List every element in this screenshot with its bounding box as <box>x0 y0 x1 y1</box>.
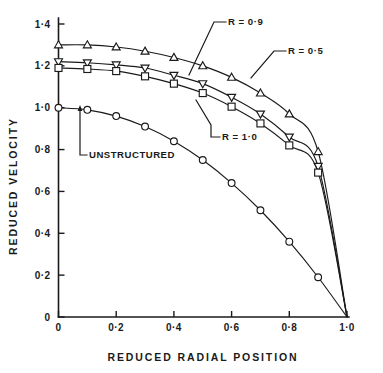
data-point-marker <box>55 64 62 71</box>
annotation-label-r09: R = 0·9 <box>228 16 263 27</box>
y-tick-label: 0·8 <box>35 144 51 155</box>
data-point-marker <box>286 142 293 149</box>
y-tick-label: 1·0 <box>35 102 51 113</box>
data-point-marker <box>142 123 149 130</box>
y-tick-label: 0·6 <box>35 186 51 197</box>
data-point-marker <box>199 90 206 97</box>
data-point-marker <box>228 180 235 187</box>
data-point-marker <box>113 68 120 75</box>
annotation-label-r10: R = 1·0 <box>222 131 257 142</box>
x-tick-label: 0·2 <box>108 322 124 333</box>
data-point-marker <box>170 80 177 87</box>
data-point-marker <box>113 113 120 120</box>
data-point-marker <box>171 138 178 145</box>
data-point-marker <box>315 169 322 176</box>
data-point-marker <box>55 104 62 111</box>
x-tick-label: 0·8 <box>281 322 297 333</box>
y-tick-label: 1·2 <box>35 60 51 71</box>
annotation-label-r05: R = 0·5 <box>288 45 323 56</box>
x-tick-label: 1·0 <box>339 322 355 333</box>
y-tick-label: 1·4 <box>35 19 51 30</box>
data-point-marker <box>286 238 293 245</box>
data-point-marker <box>315 274 322 281</box>
chart-figure: 00·20·40·60·81·01·21·4 00·20·40·60·81·0 … <box>0 0 383 373</box>
y-tick-label: 0·4 <box>35 228 51 239</box>
annotation-label-unstructured: UNSTRUCTURED <box>89 149 175 160</box>
y-axis-title: REDUCED VELOCITY <box>7 117 19 255</box>
x-axis-title: REDUCED RADIAL POSITION <box>107 351 298 363</box>
data-point-marker <box>84 106 91 113</box>
data-point-marker <box>257 120 264 127</box>
y-tick-label: 0·2 <box>35 270 51 281</box>
x-tick-label: 0·6 <box>224 322 240 333</box>
data-point-marker <box>142 73 149 80</box>
data-point-marker <box>257 207 264 214</box>
data-point-marker <box>228 103 235 110</box>
data-point-marker <box>199 157 206 164</box>
x-tick-label: 0·4 <box>166 322 182 333</box>
data-point-marker <box>84 65 91 72</box>
x-tick-label: 0 <box>56 322 62 333</box>
reduced-velocity-vs-radial-position-chart: 00·20·40·60·81·01·21·4 00·20·40·60·81·0 … <box>0 0 383 373</box>
y-tick-label: 0 <box>45 312 51 323</box>
